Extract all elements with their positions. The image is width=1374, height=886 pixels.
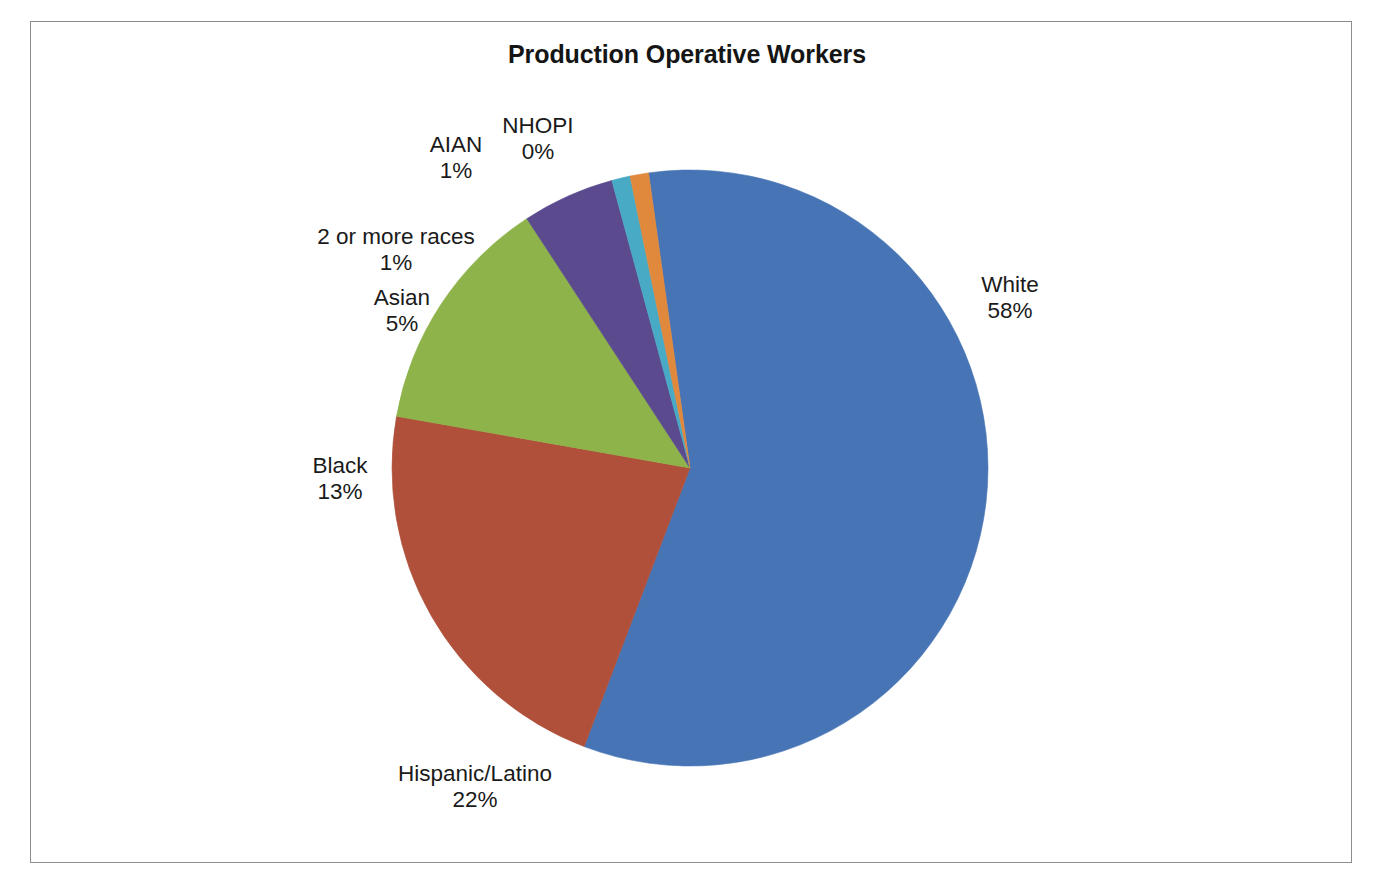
slice-label-nhopi: NHOPI 0% — [502, 113, 573, 165]
slice-label-asian: Asian 5% — [374, 285, 430, 337]
slice-label-asian-pct: 5% — [374, 311, 430, 337]
slice-label-white: White 58% — [981, 272, 1039, 324]
slice-label-aian: AIAN 1% — [430, 132, 483, 184]
slice-label-black-pct: 13% — [312, 479, 367, 505]
slice-label-nhopi-pct: 0% — [502, 139, 573, 165]
slice-label-hispanic-latino-name: Hispanic/Latino — [398, 761, 552, 787]
slice-label-white-pct: 58% — [981, 298, 1039, 324]
slice-label-white-name: White — [981, 272, 1039, 298]
slice-label-aian-pct: 1% — [430, 158, 483, 184]
pie-chart — [0, 0, 1374, 886]
slice-label-two-or-more-races: 2 or more races 1% — [317, 224, 475, 276]
slice-label-aian-name: AIAN — [430, 132, 483, 158]
slice-label-black-name: Black — [312, 453, 367, 479]
slice-label-hispanic-latino: Hispanic/Latino 22% — [398, 761, 552, 813]
chart-page: Production Operative Workers NHOPI 0% AI… — [0, 0, 1374, 886]
pie-slices-group — [392, 170, 988, 766]
slice-label-two-or-more-races-pct: 1% — [317, 250, 475, 276]
slice-label-two-or-more-races-name: 2 or more races — [317, 224, 475, 250]
slice-label-asian-name: Asian — [374, 285, 430, 311]
slice-label-nhopi-name: NHOPI — [502, 113, 573, 139]
slice-label-hispanic-latino-pct: 22% — [398, 787, 552, 813]
slice-label-black: Black 13% — [312, 453, 367, 505]
